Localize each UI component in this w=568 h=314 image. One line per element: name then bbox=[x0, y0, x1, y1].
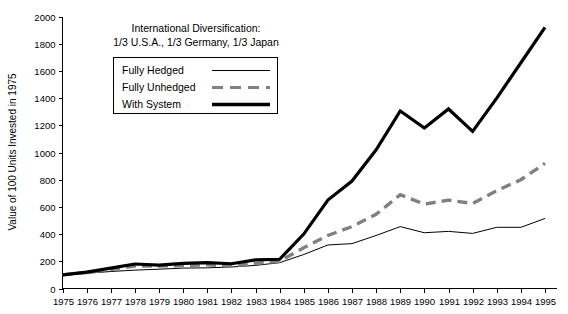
legend-label-fully-hedged: Fully Hedged bbox=[122, 64, 184, 76]
y-tick-label: 2000 bbox=[34, 12, 55, 23]
x-tick-label: 1977 bbox=[101, 296, 122, 307]
y-axis-tick-labels: 0200400600800100012001400160018002000 bbox=[34, 12, 55, 295]
chart-title-line-1: International Diversification: bbox=[132, 22, 261, 34]
x-tick-label: 1990 bbox=[414, 296, 435, 307]
x-tick-label: 1982 bbox=[221, 296, 242, 307]
legend: Fully Hedged Fully Unhedged With System bbox=[114, 58, 278, 114]
x-tick-label: 1988 bbox=[366, 296, 387, 307]
y-tick-label: 0 bbox=[50, 284, 55, 295]
x-tick-label: 1991 bbox=[439, 296, 460, 307]
x-tick-label: 1993 bbox=[487, 296, 508, 307]
y-tick-label: 600 bbox=[40, 202, 56, 213]
x-tick-label: 1978 bbox=[125, 296, 146, 307]
y-tick-label: 1400 bbox=[34, 93, 55, 104]
x-tick-label: 1981 bbox=[197, 296, 218, 307]
y-axis-ticks bbox=[59, 18, 63, 290]
y-axis-title: Value of 100 Units Invested in 1975 bbox=[7, 73, 18, 231]
y-tick-label: 1200 bbox=[34, 120, 55, 131]
x-tick-label: 1989 bbox=[390, 296, 411, 307]
x-tick-label: 1975 bbox=[53, 296, 74, 307]
y-tick-label: 1800 bbox=[34, 39, 55, 50]
x-tick-label: 1980 bbox=[173, 296, 194, 307]
x-tick-label: 1992 bbox=[463, 296, 484, 307]
chart-container: Value of 100 Units Invested in 1975 0200… bbox=[0, 0, 568, 314]
x-tick-label: 1984 bbox=[270, 296, 291, 307]
chart-title-line-2: 1/3 U.S.A., 1/3 Germany, 1/3 Japan bbox=[113, 36, 279, 48]
line-chart: Value of 100 Units Invested in 1975 0200… bbox=[0, 0, 568, 314]
x-tick-label: 1976 bbox=[77, 296, 98, 307]
x-tick-label: 1983 bbox=[246, 296, 267, 307]
x-tick-label: 1985 bbox=[294, 296, 315, 307]
x-axis-tick-labels: 1975197619771978197919801981198219831984… bbox=[53, 296, 556, 307]
y-tick-label: 1600 bbox=[34, 66, 55, 77]
y-tick-label: 800 bbox=[40, 175, 56, 186]
x-tick-label: 1994 bbox=[511, 296, 532, 307]
legend-label-with-system: With System bbox=[122, 98, 181, 110]
y-tick-label: 1000 bbox=[34, 148, 55, 159]
series-line-fully-unhedged bbox=[63, 163, 546, 275]
x-tick-label: 1987 bbox=[342, 296, 363, 307]
y-tick-label: 200 bbox=[40, 256, 56, 267]
legend-label-fully-unhedged: Fully Unhedged bbox=[122, 81, 196, 93]
x-tick-label: 1995 bbox=[535, 296, 556, 307]
x-axis-ticks bbox=[64, 289, 546, 293]
x-tick-label: 1986 bbox=[318, 296, 339, 307]
x-tick-label: 1979 bbox=[149, 296, 170, 307]
y-tick-label: 400 bbox=[40, 229, 56, 240]
